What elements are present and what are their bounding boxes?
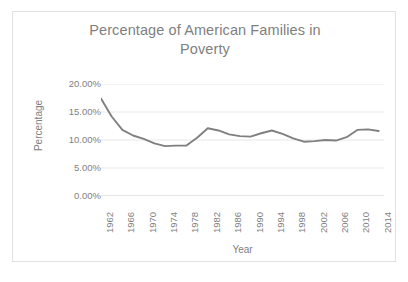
x-axis-tick-label: 2010 bbox=[361, 212, 371, 233]
y-axis-tick-labels: 0.00%5.00%10.00%15.00%20.00% bbox=[45, 12, 101, 263]
x-axis-tick-label: 1994 bbox=[276, 212, 286, 233]
y-axis-tick-label: 5.00% bbox=[45, 163, 101, 173]
x-axis-tick-label: 1970 bbox=[148, 212, 158, 233]
x-axis-title: Year bbox=[101, 244, 384, 255]
x-axis-tick-label: 1962 bbox=[105, 212, 115, 233]
y-axis-tick-label: 20.00% bbox=[45, 79, 101, 89]
y-axis-tick-label: 0.00% bbox=[45, 191, 101, 201]
x-axis-tick-label: 1974 bbox=[169, 212, 179, 233]
x-axis-tick-label: 1966 bbox=[126, 212, 136, 233]
data-series-line bbox=[101, 99, 379, 147]
chart-container: Percentage of American Families in Pover… bbox=[12, 11, 396, 262]
x-axis-tick-label: 1998 bbox=[297, 212, 307, 233]
x-axis-tick-label: 2002 bbox=[319, 212, 329, 233]
x-axis-tick-label: 1978 bbox=[190, 212, 200, 233]
x-axis-tick-label: 1982 bbox=[212, 212, 222, 233]
x-axis-tick-label: 1990 bbox=[255, 212, 265, 233]
y-axis-title: Percentage bbox=[33, 81, 44, 171]
x-axis-tick-label: 2014 bbox=[383, 212, 393, 233]
x-axis-tick-label: 2006 bbox=[340, 212, 350, 233]
gridlines bbox=[101, 84, 384, 196]
plot-area bbox=[101, 84, 384, 196]
y-axis-tick-label: 15.00% bbox=[45, 107, 101, 117]
x-axis-tick-labels: 1962196619701974197819821986199019941998… bbox=[101, 197, 384, 243]
x-axis-tick-label: 1986 bbox=[233, 212, 243, 233]
y-axis-tick-label: 10.00% bbox=[45, 135, 101, 145]
